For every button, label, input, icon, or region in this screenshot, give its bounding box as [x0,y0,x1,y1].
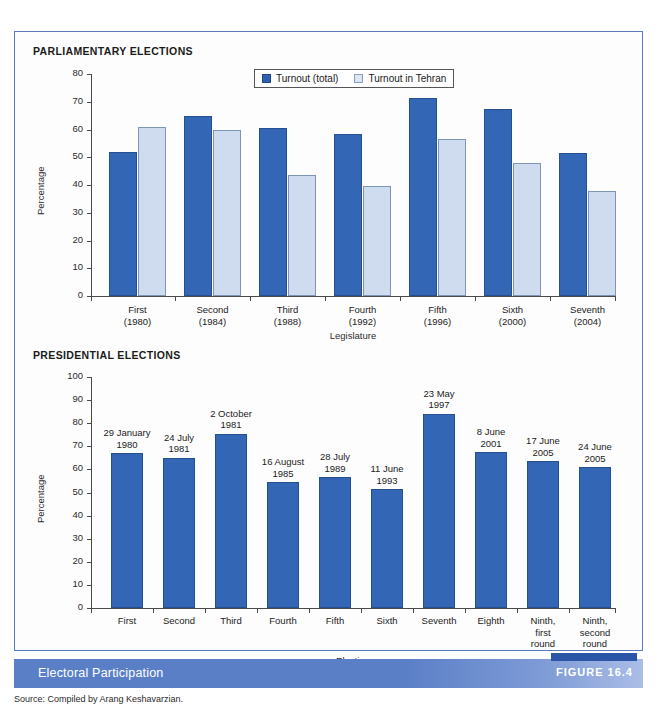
y-axis-tick-mark [87,446,91,447]
bar [215,434,247,608]
y-axis-tick-mark [87,562,91,563]
figure-caption-bar: Electoral Participation FIGURE 16.4 [14,659,643,688]
source-note: Source: Compiled by Arang Keshavarzian. [14,694,183,704]
y-axis-tick-label: 20 [49,555,83,566]
y-axis-tick-label: 10 [49,578,83,589]
y-axis-tick-mark [87,400,91,401]
y-axis-tick-label: 60 [49,462,83,473]
bar [423,414,455,608]
x-axis-tick-mark [309,608,310,613]
bar [267,482,299,608]
x-axis-line [91,608,615,609]
x-axis-tick-mark [615,608,616,613]
bar-value-annotation: 2 October 1981 [197,408,265,431]
bar-value-annotation: 24 July 1981 [145,432,213,455]
y-axis-tick-label: 70 [49,439,83,450]
x-axis-tick-mark [413,608,414,613]
y-axis-tick-mark [87,516,91,517]
bar-value-annotation: 23 May 1997 [405,388,473,411]
bar [475,452,507,608]
bar [371,489,403,608]
y-axis-tick-label: 80 [49,416,83,427]
bar [579,467,611,608]
y-axis-line [91,377,92,608]
y-axis-tick-mark [87,469,91,470]
y-axis-tick-label: 30 [49,532,83,543]
y-axis-title: Percentage [35,474,46,523]
x-axis-tick-mark [465,608,466,613]
figure-panel: PARLIAMENTARY ELECTIONS Turnout (total) … [14,31,643,651]
page-bleed-text [0,0,659,14]
y-axis-tick-label: 90 [49,393,83,404]
y-axis-tick-mark [87,539,91,540]
bar [111,453,143,608]
y-axis-tick-mark [87,585,91,586]
bar [527,461,559,608]
presidential-elections-chart: 0102030405060708090100PercentageFirst29 … [15,32,644,652]
y-axis-tick-label: 50 [49,486,83,497]
x-axis-tick-mark [91,608,92,613]
x-axis-tick-mark [153,608,154,613]
x-axis-tick-mark [257,608,258,613]
x-axis-tick-mark [569,608,570,613]
x-axis-tick-mark [205,608,206,613]
x-axis-category-label: Ninth, second round [561,615,629,650]
y-axis-tick-mark [87,377,91,378]
bar [163,458,195,608]
figure-number-tab [551,653,637,661]
y-axis-tick-label: 0 [49,601,83,612]
bar-value-annotation: 11 June 1993 [353,463,421,486]
bar [319,477,351,608]
y-axis-tick-mark [87,423,91,424]
y-axis-tick-label: 100 [49,370,83,381]
y-axis-tick-mark [87,493,91,494]
bar-value-annotation: 24 June 2005 [561,441,629,464]
y-axis-tick-label: 40 [49,509,83,520]
figure-number-label: FIGURE 16.4 [556,666,633,678]
x-axis-tick-mark [517,608,518,613]
x-axis-tick-mark [361,608,362,613]
figure-caption-title: Electoral Participation [38,666,164,680]
